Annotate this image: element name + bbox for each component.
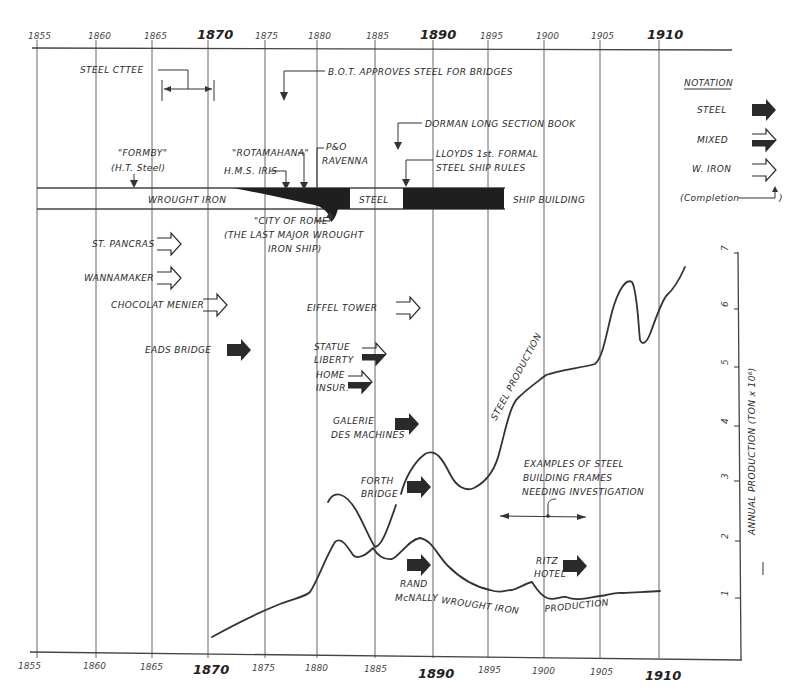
legend-steel-label: STEEL [697,105,727,115]
year-label: 1885 [366,31,389,41]
steel-committee-annotation: STEEL CTTEE [80,65,214,101]
steel-arrow-icon [752,99,776,121]
year-label: 1890 [420,27,456,42]
bottom-year-axis: 1855 1860 1865 1870 1875 1880 1885 1890 … [18,652,742,683]
y-tick-label: 6 [720,301,730,307]
bot-annotation: B.O.T. APPROVES STEEL FOR BRIDGES [280,67,513,101]
y-tick-label: 2 [720,533,730,539]
hms-iris-annotation: H.M.S. IRIS [224,166,290,190]
svg-text:RAND: RAND [400,579,428,589]
svg-text:FORTH: FORTH [361,476,394,486]
steel-vs-wrought-iron-chart: 1855 1860 1865 1870 1875 1880 1885 1890 … [0,0,811,700]
steel-production-label: STEEL PRODUCTION [489,331,544,422]
svg-text:P&O: P&O [326,142,347,152]
lloyds-annotation: LLOYDS 1st. FORMAL STEEL SHIP RULES [402,149,538,187]
steel-production-curve: STEEL PRODUCTION [328,267,685,547]
wrought-iron-arrow-icon [157,267,181,289]
legend-completion-label: (Completion [680,193,739,203]
year-label: 1865 [144,31,167,41]
svg-text:STEEL SHIP RULES: STEEL SHIP RULES [436,163,526,173]
svg-text:HOME: HOME [316,370,345,380]
svg-text:H.M.S. IRIS: H.M.S. IRIS [224,166,277,176]
building-rand-mcnally: RAND McNALLY [395,554,439,603]
year-label: 1860 [83,661,106,671]
y-tick-label: 3 [720,473,730,479]
building-eiffel-tower: EIFFEL TOWER [307,297,420,319]
svg-text:NEEDING INVESTIGATION: NEEDING INVESTIGATION [522,487,644,497]
legend-wiron-label: W. IRON [692,164,731,174]
svg-text:B.O.T. APPROVES STEEL FOR BRID: B.O.T. APPROVES STEEL FOR BRIDGES [328,67,513,77]
year-label: 1865 [140,662,163,672]
wrought-iron-arrow-icon [752,159,776,181]
steel-arrow-icon [563,555,587,577]
svg-text:HOTEL: HOTEL [534,569,566,579]
svg-text:DES MACHINES: DES MACHINES [331,430,405,440]
dorman-long-annotation: DORMAN LONG SECTION BOOK [394,119,576,150]
svg-text:"FORMBY": "FORMBY" [118,148,167,158]
svg-text:LLOYDS 1st. FORMAL: LLOYDS 1st. FORMAL [436,149,538,159]
steel-arrow-icon [407,554,431,576]
building-home-insurance: HOME INSUR. [316,370,372,393]
svg-text:McNALLY: McNALLY [395,593,439,603]
wrought-iron-arrow-icon [396,297,420,319]
year-label: 1875 [252,663,275,673]
top-year-axis: 1855 1860 1865 1870 1875 1880 1885 1890 … [28,27,732,50]
svg-text:DORMAN LONG SECTION BOOK: DORMAN LONG SECTION BOOK [425,119,576,129]
building-forth-bridge: FORTH BRIDGE [361,476,431,499]
year-label: 1905 [591,31,614,41]
svg-text:ST. PANCRAS: ST. PANCRAS [92,239,155,249]
y-tick-label: 5 [720,359,730,365]
legend-title: NOTATION [684,78,733,88]
steel-arrow-icon [407,476,431,498]
svg-text:EADS BRIDGE: EADS BRIDGE [145,345,211,355]
notation-legend: NOTATION STEEL MIXED W. IRON (Completion… [680,78,783,203]
band-wrought-iron-label: WROUGHT IRON [148,195,226,205]
year-label: 1895 [478,665,501,675]
building-ritz-hotel: RITZ HOTEL [534,555,587,579]
year-label: 1870 [197,27,233,42]
examples-annotation: EXAMPLES OF STEEL BUILDING FRAMES NEEDIN… [500,459,644,520]
year-label: 1905 [590,667,613,677]
band-steel-label: STEEL [359,195,389,205]
year-label: 1910 [647,27,683,42]
year-label: 1875 [255,31,278,41]
svg-text:RAVENNA: RAVENNA [322,156,368,166]
building-eads-bridge: EADS BRIDGE [145,339,251,361]
svg-text:GALERIE: GALERIE [333,416,374,426]
legend-mixed-label: MIXED [697,135,728,145]
formby-annotation: "FORMBY" (H.T. Steel) [111,148,167,188]
svg-text:(H.T. Steel): (H.T. Steel) [111,163,165,173]
wrought-iron-production-curve: WROUGHT IRON PRODUCTION [212,538,660,637]
year-label: 1900 [536,31,559,41]
y-tick-label: 1 [720,590,730,596]
year-label: 1885 [364,664,387,674]
svg-text:STEEL CTTEE: STEEL CTTEE [80,65,144,75]
wrought-iron-arrow-icon [203,294,227,316]
band-ship-building-label: SHIP BUILDING [513,195,585,205]
city-of-rome-annotation: "CITY OF ROME" (THE LAST MAJOR WROUGHT I… [224,211,365,254]
svg-text:): ) [778,193,783,203]
year-label: 1880 [308,31,331,41]
y-tick-label: 4 [720,418,730,424]
svg-text:EXAMPLES OF STEEL: EXAMPLES OF STEEL [524,459,624,469]
year-label: 1900 [532,666,555,676]
building-wannamaker: WANNAMAKER [84,267,181,289]
building-chocolat-menier: CHOCOLAT MENIER [111,294,227,316]
building-st-pancras: ST. PANCRAS [92,233,181,255]
mixed-arrow-icon [362,343,386,365]
svg-text:"ROTAMAHANA": "ROTAMAHANA" [232,148,309,158]
year-label: 1910 [645,668,681,683]
year-label: 1855 [28,31,51,41]
svg-text:BRIDGE: BRIDGE [361,489,398,499]
wrought-iron-arrow-icon [157,233,181,255]
svg-text:RITZ: RITZ [536,556,559,566]
year-label: 1870 [193,662,229,677]
svg-text:IRON SHIP): IRON SHIP) [268,244,322,254]
svg-text:CHOCOLAT MENIER: CHOCOLAT MENIER [111,300,204,310]
year-label: 1855 [18,661,41,671]
steel-arrow-icon [227,339,251,361]
y-axis-title: ANNUAL PRODUCTION (TON x 10⁶) [747,367,757,536]
year-label: 1895 [480,31,503,41]
year-label: 1880 [305,663,328,673]
svg-text:WANNAMAKER: WANNAMAKER [84,273,154,283]
